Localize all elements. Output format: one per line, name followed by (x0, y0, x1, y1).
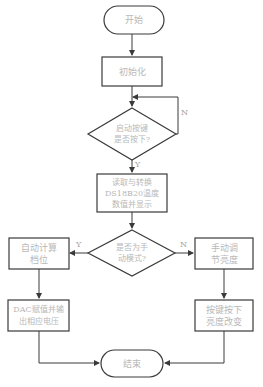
mode-no-label: N (180, 240, 187, 249)
init-node: 初始化 (102, 57, 162, 86)
end-node: 结束 (101, 350, 163, 377)
decision-mode-node: 是否为手 动模式? (106, 240, 158, 266)
auto-calc-node: 自动计算 档位 (9, 238, 69, 269)
mode-yes-label: Y (76, 240, 81, 249)
read-temp-node: 读取与转换 DS18B20温度 数值并显示 (97, 174, 167, 212)
decision-key-node: 启动按键 是否按下? (100, 120, 164, 148)
key-yes-label: Y (135, 160, 140, 169)
key-no-label: N (181, 108, 188, 117)
start-node: 开始 (104, 6, 164, 34)
key-press-node: 按键按下 亮度改变 (195, 300, 253, 331)
dac-output-node: DAC赋值并输 出相应电压 (8, 300, 69, 331)
manual-adjust-node: 手动调 节亮度 (195, 238, 253, 269)
